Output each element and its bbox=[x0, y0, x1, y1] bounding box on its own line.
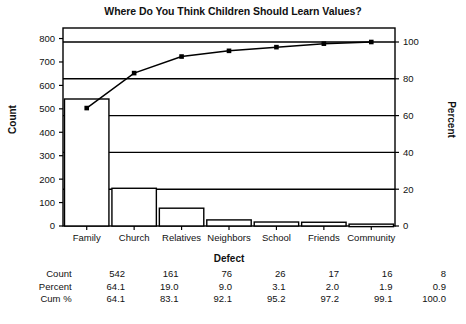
bar bbox=[302, 222, 346, 226]
y-tick-label: 400 bbox=[39, 127, 55, 138]
table-cell: 0.9 bbox=[392, 281, 446, 294]
data-table-wrap: Count542161762617168Percent64.119.09.03.… bbox=[0, 268, 466, 306]
line-marker bbox=[132, 71, 137, 76]
y-tick-label: 600 bbox=[39, 80, 55, 91]
table-cell: 542 bbox=[72, 268, 125, 281]
x-tick-label: Community bbox=[347, 232, 395, 243]
table-row-label: Percent bbox=[16, 281, 72, 294]
y-tick-label: 800 bbox=[39, 33, 55, 44]
pareto-chart: Where Do You Think Children Should Learn… bbox=[0, 0, 466, 324]
table-row-label: Cum % bbox=[16, 293, 72, 306]
line-marker bbox=[369, 40, 374, 45]
line-marker bbox=[84, 106, 89, 111]
y-tick-label: 0 bbox=[50, 220, 55, 231]
bar bbox=[112, 188, 156, 226]
y2-tick-label: 80 bbox=[403, 73, 414, 84]
table-cell: 83.1 bbox=[125, 293, 178, 306]
table-cell: 99.1 bbox=[339, 293, 392, 306]
bar bbox=[65, 99, 109, 226]
x-tick-label: School bbox=[262, 232, 291, 243]
summary-table: Count542161762617168Percent64.119.09.03.… bbox=[16, 268, 446, 306]
table-cell: 97.2 bbox=[285, 293, 338, 306]
table-cell: 3.1 bbox=[232, 281, 285, 294]
y-tick-label: 500 bbox=[39, 103, 55, 114]
line-marker bbox=[274, 45, 279, 50]
y-tick-label: 200 bbox=[39, 174, 55, 185]
x-tick-label: Church bbox=[119, 232, 150, 243]
table-cell: 26 bbox=[232, 268, 285, 281]
table-row: Cum %64.183.192.195.297.299.1100.0 bbox=[16, 293, 446, 306]
table-row-label: Count bbox=[16, 268, 72, 281]
x-tick-label: Family bbox=[73, 232, 101, 243]
plot-area: 0100200300400500600700800020406080100Fam… bbox=[0, 0, 466, 268]
table-cell: 92.1 bbox=[179, 293, 232, 306]
y2-tick-label: 100 bbox=[403, 36, 419, 47]
bar bbox=[254, 222, 298, 226]
table-row: Percent64.119.09.03.12.01.90.9 bbox=[16, 281, 446, 294]
table-cell: 17 bbox=[285, 268, 338, 281]
table-cell: 64.1 bbox=[72, 293, 125, 306]
line-marker bbox=[179, 54, 184, 59]
y-tick-label: 100 bbox=[39, 197, 55, 208]
table-cell: 95.2 bbox=[232, 293, 285, 306]
table-cell: 76 bbox=[179, 268, 232, 281]
y-tick-label: 700 bbox=[39, 56, 55, 67]
table-cell: 9.0 bbox=[179, 281, 232, 294]
table-cell: 1.9 bbox=[339, 281, 392, 294]
bar bbox=[207, 220, 251, 226]
x-tick-label: Neighbors bbox=[207, 232, 251, 243]
x-tick-label: Friends bbox=[308, 232, 340, 243]
y2-tick-label: 40 bbox=[403, 147, 414, 158]
x-tick-label: Relatives bbox=[162, 232, 201, 243]
y2-tick-label: 0 bbox=[403, 220, 408, 231]
table-cell: 2.0 bbox=[285, 281, 338, 294]
table-cell: 161 bbox=[125, 268, 178, 281]
table-cell: 16 bbox=[339, 268, 392, 281]
line-marker bbox=[227, 49, 232, 54]
table-cell: 64.1 bbox=[72, 281, 125, 294]
table-cell: 100.0 bbox=[392, 293, 446, 306]
y2-tick-label: 20 bbox=[403, 184, 414, 195]
table-row: Count542161762617168 bbox=[16, 268, 446, 281]
y2-tick-label: 60 bbox=[403, 110, 414, 121]
line-marker bbox=[322, 41, 327, 46]
bar bbox=[159, 208, 203, 226]
table-cell: 19.0 bbox=[125, 281, 178, 294]
y-tick-label: 300 bbox=[39, 150, 55, 161]
table-cell: 8 bbox=[392, 268, 446, 281]
